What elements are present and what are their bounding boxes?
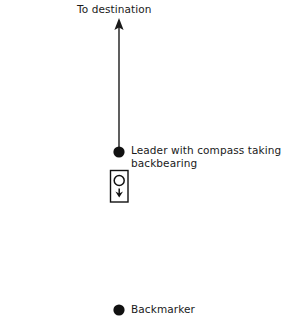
compass-dial-icon (114, 176, 124, 186)
destination-label: To destination (77, 3, 152, 16)
leader-label: Leader with compass taking backbearing (131, 144, 283, 169)
navigation-diagram: To destination Leader with compass takin… (0, 0, 284, 336)
leader-dot-icon (113, 146, 124, 157)
backmarker-label: Backmarker (131, 303, 251, 316)
backmarker-dot-icon (113, 304, 124, 315)
